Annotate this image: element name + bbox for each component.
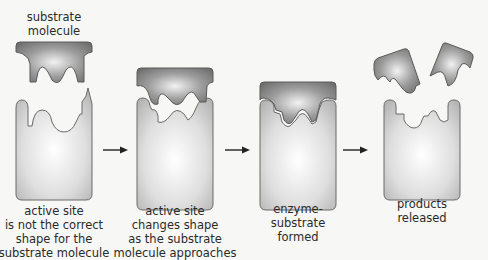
caption-panel4: products released [382, 197, 462, 225]
arrow-1-to-2 [103, 147, 128, 154]
enzyme-panel1 [16, 88, 92, 200]
substrate-molecule-panel2 [137, 68, 213, 105]
caption-line: shape for the [0, 232, 114, 246]
caption-panel3: enzyme- substrate formed [258, 202, 338, 244]
substrate-molecule-panel1 [16, 42, 92, 83]
product-fragment-left [374, 49, 420, 93]
caption-line: substrate [258, 216, 338, 230]
caption-line: active site [113, 204, 237, 218]
label-line: substrate [18, 10, 90, 24]
enzyme-panel2 [137, 98, 213, 210]
label-line: molecule [18, 24, 90, 38]
caption-line: changes shape [113, 218, 237, 232]
caption-line: as the substrate [113, 232, 237, 246]
caption-panel2: active site changes shape as the substra… [113, 204, 237, 260]
product-fragment-right [430, 43, 473, 86]
substrate-molecule-label: substrate molecule [18, 10, 90, 38]
enzyme-panel4 [384, 100, 460, 200]
arrow-3-to-4 [343, 147, 368, 154]
caption-line: is not the correct [0, 218, 114, 232]
arrow-2-to-3 [225, 147, 250, 154]
caption-line: substrate molecule [0, 246, 114, 260]
caption-line: products [382, 197, 462, 211]
caption-panel1: active site is not the correct shape for… [0, 204, 114, 260]
caption-line: released [382, 211, 462, 225]
caption-line: formed [258, 230, 338, 244]
enzyme-panel3 [260, 100, 336, 210]
caption-line: enzyme- [258, 202, 338, 216]
caption-line: active site [0, 204, 114, 218]
caption-line: molecule approaches [113, 246, 237, 260]
